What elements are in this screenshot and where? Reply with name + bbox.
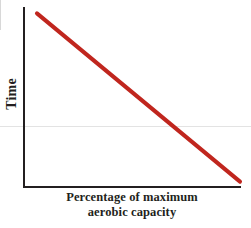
- x-axis-label-line1: Percentage of maximum: [66, 190, 198, 204]
- x-axis-label-line2: aerobic capacity: [24, 205, 240, 220]
- chart-figure: Time Percentage of maximum aerobic capac…: [0, 0, 251, 228]
- x-axis-label: Percentage of maximum aerobic capacity: [24, 190, 240, 220]
- data-series-line: [37, 13, 240, 181]
